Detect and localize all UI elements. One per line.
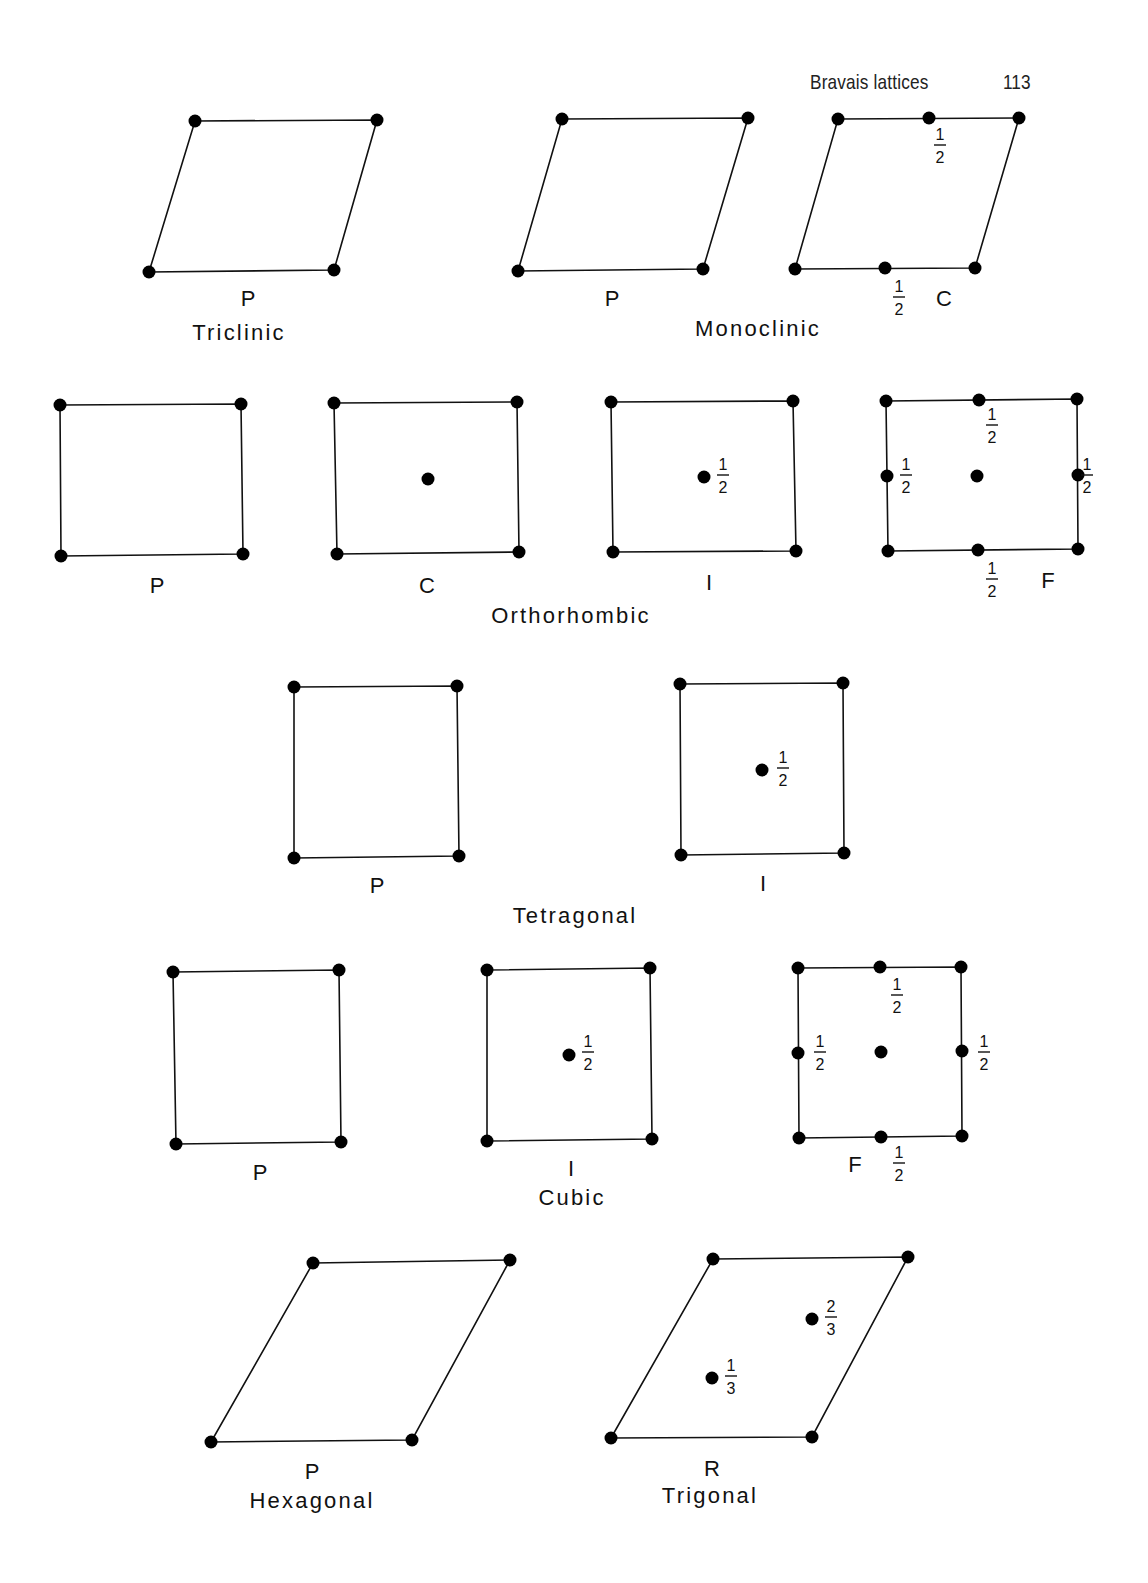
crystal-system-label: Trigonal [662, 1483, 758, 1508]
crystal-system-label: Monoclinic [695, 316, 821, 341]
lattice-type-label: I [568, 1156, 574, 1181]
lattice-type-label: P [305, 1459, 320, 1484]
svg-text:1: 1 [988, 560, 997, 577]
svg-text:2: 2 [779, 772, 788, 789]
bravais-lattices-diagram: P Triclinic P 1 2 1 2 C Monoclinic P C [0, 0, 1148, 1583]
orthorhombic-i-cell: 1 2 I [605, 395, 803, 596]
lattice-type-label: I [760, 871, 766, 896]
orthorhombic-c-cell: C [328, 396, 526, 599]
lattice-type-label: P [150, 573, 165, 598]
svg-text:3: 3 [727, 1380, 736, 1397]
svg-text:3: 3 [827, 1321, 836, 1338]
cubic-p-cell: P [167, 964, 348, 1186]
svg-text:1: 1 [779, 749, 788, 766]
triclinic-p-cell: P Triclinic [143, 114, 384, 346]
lattice-type-label: R [704, 1456, 720, 1481]
tetragonal-i-cell: 1 2 I [674, 677, 851, 897]
svg-text:1: 1 [895, 278, 904, 295]
lattice-type-label: F [848, 1152, 861, 1177]
svg-text:2: 2 [895, 301, 904, 318]
crystal-system-label: Triclinic [192, 320, 286, 345]
orthorhombic-p-cell: P [54, 398, 250, 599]
svg-text:2: 2 [827, 1298, 836, 1315]
svg-text:1: 1 [893, 976, 902, 993]
lattice-type-label: C [419, 573, 435, 598]
lattice-type-label: P [253, 1160, 268, 1185]
hexagonal-p-cell: P Hexagonal [205, 1254, 517, 1514]
lattice-type-label: P [605, 286, 620, 311]
monoclinic-p-cell: P [512, 112, 755, 312]
svg-text:1: 1 [1083, 456, 1092, 473]
svg-text:2: 2 [816, 1056, 825, 1073]
tetragonal-p-cell: P [288, 680, 466, 899]
monoclinic-c-cell: 1 2 1 2 C [789, 112, 1026, 319]
svg-text:1: 1 [936, 126, 945, 143]
svg-text:1: 1 [816, 1033, 825, 1050]
svg-text:1: 1 [584, 1033, 593, 1050]
crystal-system-label: Cubic [538, 1185, 605, 1210]
svg-text:2: 2 [893, 999, 902, 1016]
svg-text:2: 2 [895, 1167, 904, 1184]
crystal-system-label: Orthorhombic [491, 603, 651, 628]
svg-text:1: 1 [727, 1357, 736, 1374]
svg-text:1: 1 [902, 456, 911, 473]
svg-text:2: 2 [719, 479, 728, 496]
lattice-type-label: F [1041, 568, 1054, 593]
lattice-type-label: P [241, 286, 256, 311]
cubic-f-cell: 1 2 1 2 1 2 1 2 F [792, 961, 991, 1185]
svg-text:2: 2 [988, 429, 997, 446]
svg-text:2: 2 [988, 583, 997, 600]
lattice-type-label: P [370, 873, 385, 898]
svg-text:1: 1 [895, 1144, 904, 1161]
orthorhombic-f-cell: 1 2 1 2 1 2 1 2 F [880, 393, 1094, 601]
svg-text:2: 2 [902, 479, 911, 496]
svg-text:1: 1 [719, 456, 728, 473]
svg-text:2: 2 [936, 149, 945, 166]
svg-text:1: 1 [988, 406, 997, 423]
lattice-type-label: I [706, 570, 712, 595]
lattice-type-label: C [936, 286, 952, 311]
crystal-system-label: Tetragonal [513, 903, 638, 928]
crystal-system-label: Hexagonal [250, 1488, 375, 1513]
svg-text:2: 2 [584, 1056, 593, 1073]
cubic-i-cell: 1 2 I [481, 962, 659, 1182]
svg-text:1: 1 [980, 1033, 989, 1050]
svg-text:2: 2 [980, 1056, 989, 1073]
svg-text:2: 2 [1083, 479, 1092, 496]
trigonal-r-cell: 2 3 1 3 R Trigonal [605, 1251, 915, 1509]
